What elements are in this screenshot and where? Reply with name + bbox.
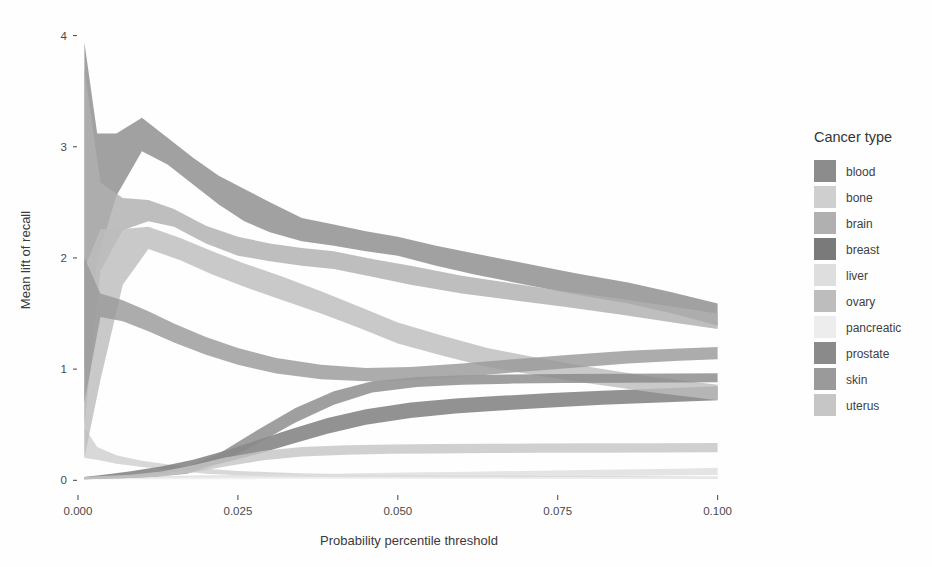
- legend-label-prostate[interactable]: prostate: [846, 347, 890, 361]
- y-tick-label: 3: [61, 141, 67, 153]
- legend-swatch-brain[interactable]: [814, 212, 836, 234]
- legend-label-uterus[interactable]: uterus: [846, 399, 879, 413]
- y-tick-label: 1: [61, 363, 67, 375]
- x-tick-label: 0.025: [224, 505, 253, 517]
- x-tick-label: 0.100: [703, 505, 732, 517]
- x-tick-label: 0.000: [64, 505, 93, 517]
- legend-swatch-uterus[interactable]: [814, 394, 836, 416]
- legend-label-ovary[interactable]: ovary: [846, 295, 875, 309]
- x-axis-title: Probability percentile threshold: [320, 533, 498, 548]
- legend-swatch-ovary[interactable]: [814, 290, 836, 312]
- y-tick-label: 2: [61, 252, 67, 264]
- legend-label-skin[interactable]: skin: [846, 373, 867, 387]
- ribbon-chart: 01234 0.0000.0250.0500.0750.100 Mean lif…: [0, 0, 932, 567]
- chart-page: 01234 0.0000.0250.0500.0750.100 Mean lif…: [0, 0, 932, 567]
- legend-swatch-breast[interactable]: [814, 238, 836, 260]
- legend-swatch-prostate[interactable]: [814, 342, 836, 364]
- x-tick-label: 0.050: [383, 505, 412, 517]
- legend-label-pancreatic[interactable]: pancreatic: [846, 321, 901, 335]
- y-tick-label: 0: [61, 474, 67, 486]
- legend-label-brain[interactable]: brain: [846, 217, 873, 231]
- y-tick-label: 4: [61, 30, 68, 42]
- legend-swatch-bone[interactable]: [814, 186, 836, 208]
- legend-label-breast[interactable]: breast: [846, 243, 880, 257]
- y-axis-title: Mean lift of recall: [18, 211, 33, 309]
- legend-label-blood[interactable]: blood: [846, 165, 875, 179]
- legend-swatch-liver[interactable]: [814, 264, 836, 286]
- legend-label-bone[interactable]: bone: [846, 191, 873, 205]
- legend-swatch-skin[interactable]: [814, 368, 836, 390]
- legend-label-liver[interactable]: liver: [846, 269, 868, 283]
- x-tick-label: 0.075: [543, 505, 572, 517]
- legend-swatch-blood[interactable]: [814, 160, 836, 182]
- legend-title: Cancer type: [814, 129, 892, 145]
- legend-swatch-pancreatic[interactable]: [814, 316, 836, 338]
